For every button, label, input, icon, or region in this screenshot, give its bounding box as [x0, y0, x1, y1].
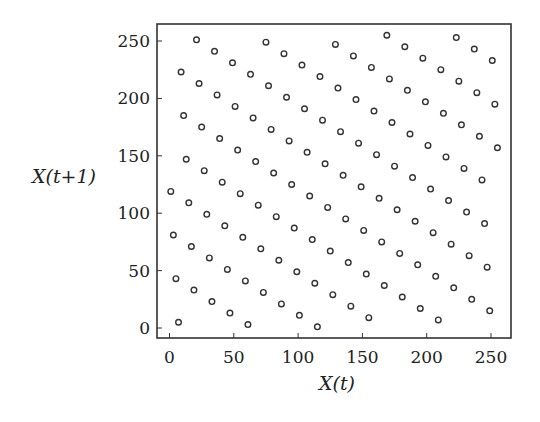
data-point-marker: [273, 214, 279, 220]
data-point-marker: [245, 322, 251, 328]
data-point-marker: [417, 306, 423, 312]
data-point-marker: [381, 283, 387, 289]
data-point-marker: [194, 37, 200, 43]
data-point-marker: [441, 111, 447, 117]
data-point-marker: [345, 260, 351, 266]
y-tick-label: 50: [128, 261, 150, 281]
data-point-marker: [448, 241, 454, 247]
data-point-marker: [243, 278, 249, 284]
data-point-marker: [487, 308, 493, 314]
data-point-marker: [438, 67, 444, 73]
data-point-marker: [387, 76, 393, 82]
data-point-marker: [212, 49, 218, 55]
data-point-marker: [489, 58, 495, 64]
y-tick-label: 250: [118, 31, 150, 51]
data-point-marker: [297, 313, 303, 319]
data-point-marker: [173, 276, 179, 282]
x-tick-label: 200: [410, 347, 442, 367]
data-point-marker: [168, 189, 174, 195]
data-point-marker: [369, 65, 375, 71]
x-tick-label: 0: [164, 347, 175, 367]
data-point-marker: [394, 207, 400, 213]
data-point-marker: [255, 202, 261, 208]
data-point-marker: [340, 173, 346, 179]
data-point-marker: [428, 186, 434, 192]
data-point-marker: [443, 154, 449, 160]
data-point-marker: [374, 152, 380, 158]
data-point-marker: [317, 74, 323, 80]
data-point-marker: [474, 90, 480, 96]
data-point-marker: [389, 120, 395, 126]
data-point-marker: [240, 235, 246, 241]
data-point-marker: [392, 163, 398, 169]
data-point-marker: [464, 209, 470, 215]
y-tick-label: 200: [118, 88, 150, 108]
data-point-marker: [459, 122, 465, 128]
data-point-marker: [479, 177, 485, 183]
data-point-marker: [276, 257, 282, 263]
data-point-marker: [178, 69, 184, 75]
data-point-marker: [363, 271, 369, 277]
data-point-marker: [435, 317, 441, 323]
data-point-marker: [397, 251, 403, 257]
data-point-marker: [484, 264, 490, 270]
data-point-marker: [466, 253, 472, 259]
data-point-marker: [405, 88, 411, 94]
data-point-marker: [379, 239, 385, 245]
data-point-marker: [366, 315, 372, 321]
data-point-marker: [219, 179, 225, 185]
data-point-marker: [325, 205, 331, 211]
data-point-marker: [446, 198, 452, 204]
data-point-marker: [191, 287, 197, 293]
data-point-marker: [456, 78, 462, 84]
data-point-marker: [222, 223, 228, 229]
data-point-marker: [495, 145, 501, 151]
data-point-marker: [335, 85, 341, 91]
data-point-marker: [430, 230, 436, 236]
data-point-marker: [492, 101, 498, 107]
data-point-marker: [183, 156, 189, 162]
data-point-marker: [230, 60, 236, 66]
data-point-marker: [420, 55, 426, 61]
data-point-marker: [235, 147, 241, 153]
data-point-marker: [225, 267, 231, 273]
data-point-marker: [189, 244, 195, 250]
data-point-marker: [250, 115, 256, 121]
data-point-marker: [284, 94, 290, 100]
data-point-marker: [399, 294, 405, 300]
data-point-marker: [286, 138, 292, 144]
data-point-marker: [348, 303, 354, 309]
data-point-marker: [433, 274, 439, 280]
data-point-marker: [309, 237, 315, 243]
data-point-marker: [248, 71, 254, 77]
data-point-marker: [338, 129, 344, 135]
data-point-marker: [232, 104, 238, 110]
plot-area: 050100150200250 050100150200250: [118, 24, 511, 367]
data-point-marker: [412, 218, 418, 224]
data-point-marker: [289, 182, 295, 188]
y-axis-ticks: 050100150200250: [118, 31, 162, 338]
x-tick-label: 100: [282, 347, 314, 367]
data-point-marker: [469, 297, 475, 303]
data-point-marker: [425, 143, 431, 149]
data-point-marker: [253, 159, 259, 165]
data-point-marker: [196, 81, 202, 87]
data-point-marker: [312, 280, 318, 286]
y-tick-label: 0: [139, 318, 150, 338]
data-point-marker: [281, 51, 287, 57]
data-point-marker: [410, 175, 416, 181]
data-point-marker: [423, 99, 429, 105]
data-point-marker: [384, 32, 390, 38]
y-tick-label: 150: [118, 146, 150, 166]
data-point-marker: [227, 310, 233, 316]
data-point-marker: [307, 193, 313, 199]
data-point-marker: [322, 161, 328, 167]
y-axis-label: X(t+1): [30, 165, 96, 187]
data-point-marker: [371, 108, 377, 114]
x-axis-label: X(t): [317, 372, 355, 394]
data-point-marker: [214, 92, 220, 98]
data-point-marker: [217, 136, 223, 142]
data-point-marker: [302, 106, 308, 112]
data-point-marker: [477, 133, 483, 139]
x-tick-label: 50: [223, 347, 245, 367]
